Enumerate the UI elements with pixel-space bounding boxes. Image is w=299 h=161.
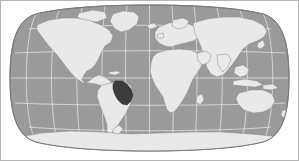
antarctica-shape bbox=[10, 131, 291, 153]
world-map-canvas bbox=[1, 1, 298, 160]
world-map-figure bbox=[0, 0, 299, 161]
